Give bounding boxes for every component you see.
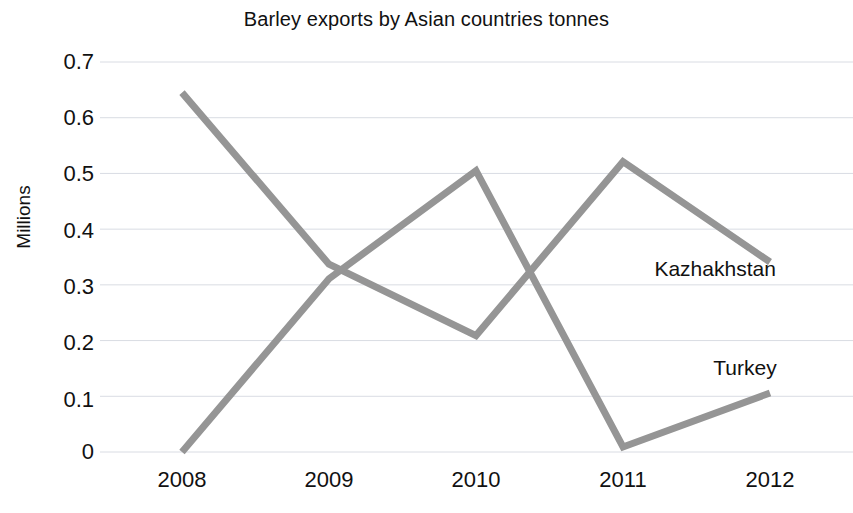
series-label-kazhakhstan: Kazhakhstan <box>654 257 775 281</box>
series-line-kazhakhstan <box>182 93 770 336</box>
series-label-turkey: Turkey <box>713 356 776 380</box>
line-chart: Barley exports by Asian countries tonnes… <box>0 0 853 513</box>
series-line-turkey <box>182 171 770 452</box>
